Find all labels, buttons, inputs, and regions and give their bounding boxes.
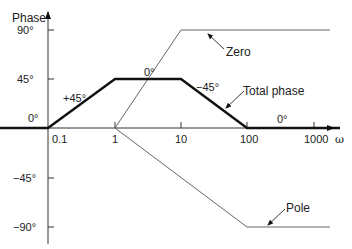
x-tick-0.1: 0.1 (52, 134, 67, 145)
annotation-flat-end: 0° (277, 114, 288, 125)
y-tick-0: 0° (28, 113, 39, 124)
y-axis-label: Phase (12, 12, 46, 24)
x-tick-1: 1 (112, 134, 118, 145)
annotation-plus45: +45° (63, 93, 86, 104)
pole-label: Pole (286, 202, 310, 214)
y-tick-neg45: −45° (13, 173, 36, 184)
annotation-flat-top: 0° (144, 67, 155, 78)
zero-label: Zero (226, 46, 251, 58)
total-phase-leader (226, 91, 244, 108)
total-phase-label: Total phase (243, 85, 304, 97)
zero-leader (208, 34, 224, 49)
x-tick-100: 100 (240, 134, 258, 145)
x-axis-label: ω (335, 134, 344, 145)
annotation-minus45: −45° (196, 82, 219, 93)
x-tick-10: 10 (175, 134, 187, 145)
y-tick-45: 45° (17, 74, 34, 85)
y-tick-90: 90° (17, 25, 34, 36)
y-tick-neg90: −90° (13, 222, 36, 233)
pole-leader (268, 209, 285, 225)
x-tick-1000: 1000 (304, 134, 328, 145)
